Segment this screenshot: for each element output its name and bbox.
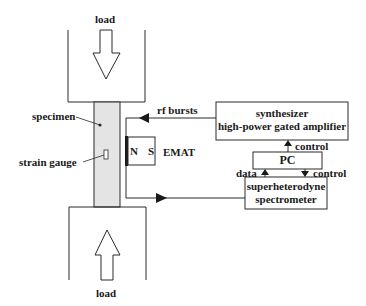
specimen-label: specimen xyxy=(32,111,75,122)
synthesizer-line2: high-power gated amplifier xyxy=(216,120,348,133)
load-arrow-up-icon xyxy=(95,230,120,280)
spectrometer-line2: spectrometer xyxy=(245,193,327,206)
control-label-upper: control xyxy=(295,141,328,152)
receive-line xyxy=(126,166,245,198)
emat-label: EMAT xyxy=(163,147,195,158)
data-arrow-up-icon xyxy=(261,169,269,175)
rf-bursts-label: rf bursts xyxy=(157,105,198,116)
strain-gauge-label: strain gauge xyxy=(19,157,77,168)
control-arrow-up-icon xyxy=(284,140,292,146)
control-label-lower: control xyxy=(313,168,346,179)
rf-arrow-left-icon xyxy=(139,113,149,123)
receive-arrow-right-icon xyxy=(156,193,167,203)
pc-text: PC xyxy=(253,154,322,167)
synthesizer-line1: synthesizer xyxy=(216,107,348,120)
magnet-s-label: S xyxy=(148,146,154,157)
data-label: data xyxy=(236,168,257,179)
synthesizer-text: synthesizer high-power gated amplifier xyxy=(216,107,348,133)
control-arrow-down-icon xyxy=(301,171,309,177)
strain-gauge-element xyxy=(104,150,108,159)
rf-bursts-line xyxy=(126,118,216,136)
spectrometer-text: superheterodyne spectrometer xyxy=(245,180,327,206)
magnet-n-label: N xyxy=(130,146,138,157)
load-label-bottom: load xyxy=(96,288,116,299)
load-label-top: load xyxy=(95,14,115,25)
load-arrow-down-icon xyxy=(93,30,120,79)
spectrometer-line1: superheterodyne xyxy=(245,180,327,193)
